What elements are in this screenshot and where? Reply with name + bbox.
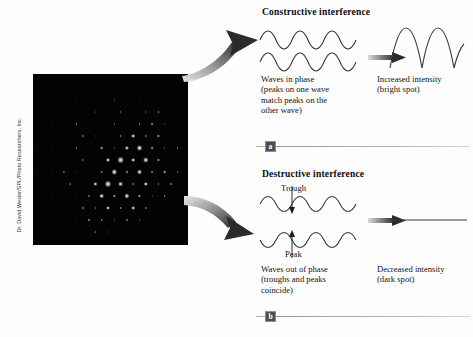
diffraction-spot xyxy=(157,158,161,162)
diffraction-spot xyxy=(88,147,89,148)
diffraction-spot xyxy=(106,206,110,210)
upper-wave-constructive xyxy=(260,31,356,49)
caption-line: Waves out of phase xyxy=(261,264,361,274)
diffraction-spot xyxy=(95,111,97,113)
diffraction-spot xyxy=(88,195,91,198)
diffraction-spot xyxy=(138,194,142,198)
diffraction-spot xyxy=(139,99,140,100)
diffraction-spot xyxy=(57,111,58,112)
label-trough: Trough xyxy=(281,183,306,193)
diffraction-spot xyxy=(131,206,135,210)
diffraction-spot xyxy=(95,135,97,137)
trough-pointer-head xyxy=(289,207,295,214)
caption-line: other wave) xyxy=(261,105,357,115)
diffraction-spot xyxy=(44,183,45,184)
diffraction-spot xyxy=(70,111,71,112)
divider-a: a xyxy=(256,141,470,152)
caption-line: Increased intensity xyxy=(377,74,473,84)
diffraction-spot xyxy=(82,111,83,112)
waves-out-of-phase xyxy=(260,196,372,258)
diffraction-spot xyxy=(87,218,90,221)
caption-line: (peaks on one wave xyxy=(261,84,357,94)
upper-wave-destructive xyxy=(260,197,356,212)
diffraction-spot xyxy=(107,231,109,233)
diffraction-spot xyxy=(100,170,103,173)
rule-line xyxy=(276,146,470,147)
diffraction-spot xyxy=(150,170,153,173)
diffraction-spot xyxy=(70,135,71,136)
diffraction-spot xyxy=(164,123,166,125)
diffraction-spot xyxy=(143,182,148,187)
curved-arrow-to-constructive xyxy=(180,18,270,80)
diffraction-spot xyxy=(81,206,84,209)
diffraction-spot xyxy=(137,169,143,175)
diffraction-spot xyxy=(51,171,52,172)
diffraction-spot xyxy=(106,158,111,163)
diffraction-spot xyxy=(113,123,115,125)
diffraction-spot xyxy=(126,99,127,100)
diffraction-spot xyxy=(113,219,115,221)
divider-b: b xyxy=(256,311,470,322)
diffraction-spot xyxy=(107,135,108,136)
lower-wave-destructive xyxy=(260,233,356,248)
photo-credit: Dr. David Wexler/SPL/Photo Researchers, … xyxy=(16,100,22,250)
figure-root: Dr. David Wexler/SPL/Photo Researchers, … xyxy=(0,0,473,337)
flat-line-cancellation xyxy=(391,214,471,226)
diffraction-spot xyxy=(63,123,64,124)
diffraction-spot xyxy=(51,147,52,148)
diffraction-spot xyxy=(124,193,130,199)
diffraction-spot xyxy=(120,231,121,232)
diffraction-spot xyxy=(131,158,136,163)
diffraction-spot xyxy=(151,195,153,197)
diffraction-spot xyxy=(126,123,127,124)
diffraction-spot xyxy=(95,87,96,88)
diffraction-spot xyxy=(70,159,71,160)
waves-in-phase xyxy=(260,26,368,70)
diffraction-spot xyxy=(93,182,97,186)
diffraction-spot xyxy=(44,135,45,136)
diffraction-spot xyxy=(101,99,102,100)
diffraction-spot xyxy=(150,146,154,150)
diffraction-spot xyxy=(119,207,122,210)
diffraction-spot xyxy=(63,195,64,196)
diffraction-spot xyxy=(101,123,102,124)
diffraction-spot xyxy=(88,123,89,124)
diffraction-spot xyxy=(120,87,121,88)
diffraction-spot xyxy=(139,219,141,221)
caption-waves-out-of-phase: Waves out of phase (troughs and peaks co… xyxy=(261,264,361,295)
diffraction-spot xyxy=(118,181,123,186)
rule-line xyxy=(276,316,470,317)
diffraction-spot xyxy=(112,194,116,198)
diffraction-spot xyxy=(170,159,172,161)
lower-wave-constructive xyxy=(260,53,356,71)
diffraction-spot xyxy=(75,123,77,125)
diffraction-spot xyxy=(143,157,149,163)
rule-stub-left xyxy=(256,146,265,147)
diffraction-spot xyxy=(170,183,173,186)
diffraction-spot xyxy=(119,111,121,113)
diffraction-spot xyxy=(107,111,108,112)
diffraction-spot xyxy=(88,171,89,172)
heading-constructive: Constructive interference xyxy=(262,6,370,17)
diffraction-spot xyxy=(51,195,52,196)
diffraction-spot xyxy=(125,218,128,221)
diffraction-spot xyxy=(176,147,178,149)
diffraction-spot xyxy=(51,123,52,124)
heading-destructive: Destructive interference xyxy=(262,168,364,179)
diffraction-spot xyxy=(95,159,96,160)
diffraction-spot xyxy=(158,207,159,208)
diffraction-spot xyxy=(81,134,84,137)
diffraction-spot xyxy=(111,169,117,175)
diffraction-spot xyxy=(131,134,136,139)
diffraction-spot xyxy=(57,135,58,136)
diffraction-spot xyxy=(133,111,134,112)
diffraction-spot xyxy=(132,182,135,185)
badge-a: a xyxy=(265,141,276,152)
diffraction-spot xyxy=(76,219,77,220)
diffraction-spot xyxy=(69,183,72,186)
diffraction-spot xyxy=(44,159,46,161)
diffraction-spot xyxy=(164,147,166,149)
diffraction-spot xyxy=(82,183,83,184)
diffraction-spot xyxy=(125,146,130,151)
wave-increased-amplitude xyxy=(390,24,470,72)
